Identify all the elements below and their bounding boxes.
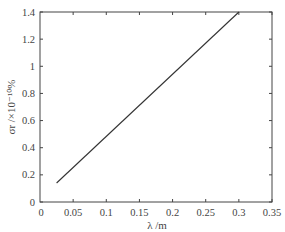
y-tick-label: 1 <box>30 61 35 72</box>
y-tick-label: 0 <box>30 197 35 208</box>
x-tick-label: 0.35 <box>263 207 281 218</box>
x-tick-label: 0.15 <box>130 207 148 218</box>
x-tick-label: 0.25 <box>197 207 215 218</box>
plot-frame <box>40 12 272 202</box>
y-tick-label: 0.6 <box>22 115 35 126</box>
y-tick-label: 1.4 <box>22 7 36 18</box>
x-tick-label: 0.3 <box>232 207 245 218</box>
x-origin-label: 0 <box>38 207 43 218</box>
x-axis-ticks: 0.050.10.150.20.250.30.35 <box>64 12 281 218</box>
y-axis-ticks: 00.20.40.60.811.21.4 <box>22 7 272 208</box>
y-tick-label: 0.2 <box>22 169 35 180</box>
plot-border <box>40 12 272 202</box>
y-axis-label: σr /×10⁻¹⁰% <box>5 79 17 134</box>
x-axis-label: λ /m <box>147 219 167 231</box>
y-tick-label: 1.2 <box>22 34 35 45</box>
data-series <box>57 12 239 183</box>
x-tick-label: 0.2 <box>166 207 179 218</box>
y-tick-label: 0.8 <box>22 88 35 99</box>
line-chart: 00.20.40.60.811.21.4 0.050.10.150.20.250… <box>0 0 285 232</box>
y-tick-label: 0.4 <box>22 142 36 153</box>
x-tick-label: 0.05 <box>64 207 82 218</box>
series-line <box>57 12 239 183</box>
x-tick-label: 0.1 <box>100 207 113 218</box>
